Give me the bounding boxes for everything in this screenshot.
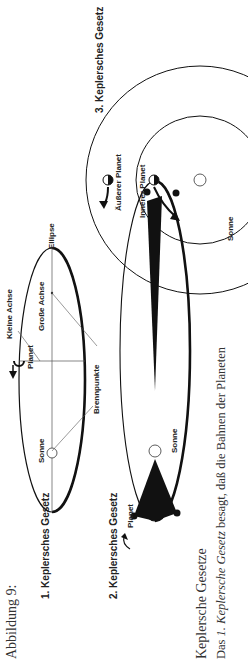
label-sonne-1: Sonne bbox=[37, 439, 46, 463]
label-planet-1: Planet bbox=[26, 345, 35, 369]
figure-caption: Abbildung 9: bbox=[4, 585, 20, 659]
label-aeusserer-planet: Äußerer Planet bbox=[114, 154, 123, 211]
label-innerer-planet: Innerer Planet bbox=[138, 165, 147, 218]
law3-diagram bbox=[86, 66, 248, 294]
line1-prefix: Das bbox=[214, 636, 228, 659]
label-sonne-3: Sonne bbox=[226, 217, 235, 241]
law1-title: 1. Keplersches Gesetz bbox=[40, 493, 51, 599]
section-heading: Keplersche Gesetze bbox=[194, 548, 210, 659]
label-planet-2: Planet bbox=[126, 504, 135, 528]
law2-diagram bbox=[120, 181, 190, 549]
law2-title: 2. Keplersches Gesetz bbox=[108, 493, 119, 599]
label-sonne-2: Sonne bbox=[170, 429, 179, 453]
line1-italic: 1. Keplersche Gesetz bbox=[214, 531, 228, 636]
label-kleine-achse: Kleine Achse bbox=[5, 289, 14, 339]
rotated-page: Abbildung 9: 1. Keplersches Gesetz Klein… bbox=[0, 0, 248, 661]
law3-title: 3. Keplersches Gesetz bbox=[94, 7, 105, 113]
body-line-1: Das 1. Keplersche Gesetz besagt, daß die… bbox=[214, 347, 229, 659]
law1-diagram bbox=[9, 248, 97, 512]
line1-suffix: besagt, daß die Bahnen der Planeten bbox=[214, 347, 228, 531]
label-ellipse: Ellipse bbox=[47, 223, 56, 249]
label-brennpunkte: Brennpunkte bbox=[92, 365, 101, 414]
label-grosse-achse: Große Achse bbox=[37, 282, 46, 332]
